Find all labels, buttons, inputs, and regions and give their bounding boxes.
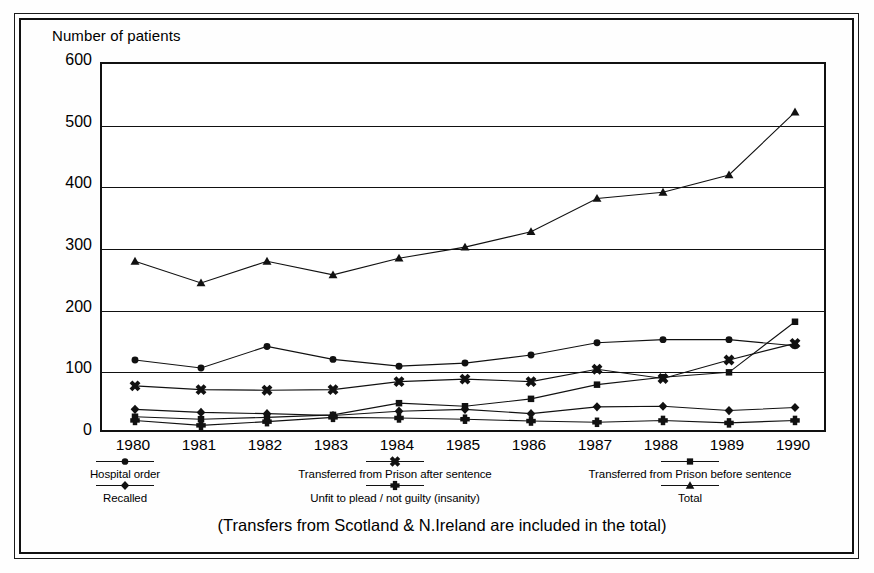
diamond-marker xyxy=(197,408,206,417)
x-axis-tick: 1981 xyxy=(169,436,229,454)
circle-marker xyxy=(122,458,129,465)
legend-marker xyxy=(245,479,545,492)
legend-item: Transferred from Prison after sentence xyxy=(245,455,545,480)
circle-marker xyxy=(462,360,469,367)
diamond-marker xyxy=(791,403,800,412)
triangle-marker xyxy=(131,257,140,265)
legend-item: Recalled xyxy=(0,479,275,504)
y-axis-tick: 200 xyxy=(0,298,92,316)
x-marker xyxy=(593,365,601,373)
square-icon xyxy=(683,455,697,468)
annotation-text: (Transfers from Scotland & N.Ireland are… xyxy=(208,516,667,534)
x-axis-tick: 1990 xyxy=(763,436,823,454)
legend-label: Recalled xyxy=(0,492,275,504)
series-layer xyxy=(102,64,828,434)
x-axis-tick: 1980 xyxy=(103,436,163,454)
x-axis-tick: 1986 xyxy=(499,436,559,454)
y-axis-tick: 100 xyxy=(0,359,92,377)
x-marker xyxy=(131,382,139,390)
circle-marker xyxy=(132,357,139,364)
square-marker xyxy=(660,374,666,380)
circle-marker xyxy=(726,336,733,343)
square-marker xyxy=(792,319,798,325)
x-axis-tick: 1987 xyxy=(565,436,625,454)
legend-label: Total xyxy=(540,492,840,504)
x-axis-tick: 1982 xyxy=(235,436,295,454)
diamond-marker xyxy=(659,402,668,411)
x-marker xyxy=(791,339,799,347)
circle-marker xyxy=(528,352,535,359)
x-icon xyxy=(388,455,402,468)
legend-item: Hospital order xyxy=(0,455,275,480)
legend-marker xyxy=(245,455,545,468)
circle-marker xyxy=(330,356,337,363)
y-axis-tick: 600 xyxy=(0,51,92,69)
circle-marker xyxy=(594,339,601,346)
x-marker xyxy=(329,386,337,394)
diamond-icon xyxy=(118,479,132,492)
plus-marker xyxy=(390,481,399,490)
circle-marker xyxy=(396,363,403,370)
plot-area xyxy=(100,62,826,432)
legend-item: Unfit to plead / not guilty (insanity) xyxy=(245,479,545,504)
legend-item: Total xyxy=(540,479,840,504)
square-marker xyxy=(396,400,402,406)
chart-figure: Number of patients 0100200300400500600 1… xyxy=(0,0,874,573)
plus-marker xyxy=(790,416,800,426)
x-marker xyxy=(461,375,469,383)
y-axis-tick: 400 xyxy=(0,174,92,192)
series-plus xyxy=(130,413,800,431)
legend-marker xyxy=(0,479,275,492)
circle-marker xyxy=(264,343,271,350)
y-axis-tick: 500 xyxy=(0,113,92,131)
y-axis-tick: 0 xyxy=(0,421,92,439)
plus-icon xyxy=(388,479,402,492)
x-marker xyxy=(263,386,271,394)
x-marker xyxy=(391,458,399,466)
x-axis-tick: 1984 xyxy=(367,436,427,454)
circle-marker xyxy=(198,365,205,372)
triangle-icon xyxy=(683,479,697,492)
plus-marker xyxy=(394,413,404,423)
triangle-marker xyxy=(686,481,695,489)
plus-marker xyxy=(592,418,602,428)
series-line xyxy=(135,112,795,283)
x-marker xyxy=(725,356,733,364)
legend-marker xyxy=(540,479,840,492)
triangle-marker xyxy=(791,108,800,116)
plus-marker xyxy=(724,418,734,428)
x-marker xyxy=(197,386,205,394)
diamond-marker xyxy=(593,402,602,411)
diamond-marker xyxy=(725,406,734,415)
triangle-marker xyxy=(263,257,272,265)
legend-marker xyxy=(540,455,840,468)
plus-marker xyxy=(196,421,206,431)
square-marker xyxy=(687,458,693,464)
x-marker xyxy=(527,378,535,386)
legend-item: Transferred from Prison before sentence xyxy=(540,455,840,480)
x-axis-tick: 1983 xyxy=(301,436,361,454)
square-marker xyxy=(726,369,732,375)
triangle-marker xyxy=(527,227,536,235)
square-marker xyxy=(528,396,534,402)
chart-legend: Hospital orderRecalledTransferred from P… xyxy=(40,455,840,505)
y-axis-tick: 300 xyxy=(0,236,92,254)
plus-marker xyxy=(262,417,272,427)
y-axis-label: Number of patients xyxy=(52,27,181,44)
x-axis-tick: 1989 xyxy=(697,436,757,454)
series-line xyxy=(135,343,795,390)
legend-marker xyxy=(0,455,275,468)
plus-marker xyxy=(460,414,470,424)
series-x xyxy=(131,339,799,394)
plus-marker xyxy=(658,416,668,426)
x-marker xyxy=(395,378,403,386)
square-marker xyxy=(594,381,600,387)
series-triangle xyxy=(131,108,800,287)
diamond-marker xyxy=(131,405,140,414)
circle-marker xyxy=(660,336,667,343)
legend-label: Unfit to plead / not guilty (insanity) xyxy=(245,492,545,504)
x-axis-tick: 1985 xyxy=(433,436,493,454)
series-circle xyxy=(132,336,799,371)
x-axis-tick: 1988 xyxy=(631,436,691,454)
chart-annotation: (Transfers from Scotland & N.Ireland are… xyxy=(0,516,874,535)
